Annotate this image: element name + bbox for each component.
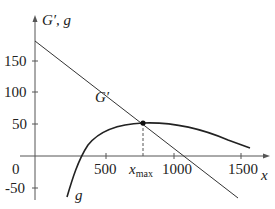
y-tick-150: 150 (4, 53, 27, 69)
y-axis-arrow-icon (33, 15, 38, 22)
g-label: g (75, 187, 83, 203)
x-axis-label: x (260, 167, 268, 183)
y-tick-0: 0 (12, 161, 20, 177)
intersection-point (140, 120, 145, 125)
xmax-label: xmax (128, 161, 153, 179)
y-tick-minus-50: -50 (5, 180, 25, 196)
x-axis (20, 153, 270, 159)
x-axis-arrow-icon (263, 154, 270, 159)
xmax-sub: max (136, 168, 153, 179)
x-tick-1500: 1500 (228, 161, 258, 177)
y-tick-100: 100 (4, 84, 27, 100)
x-tick-1000: 1000 (162, 161, 192, 177)
y-tick-50: 50 (12, 116, 27, 132)
x-tick-500: 500 (94, 161, 117, 177)
chart: G′, g x G′ g 150 100 50 0 -50 500 1000 1… (0, 0, 275, 209)
y-axis-label: G′, g (42, 12, 72, 28)
gprime-label: G′ (95, 89, 110, 105)
